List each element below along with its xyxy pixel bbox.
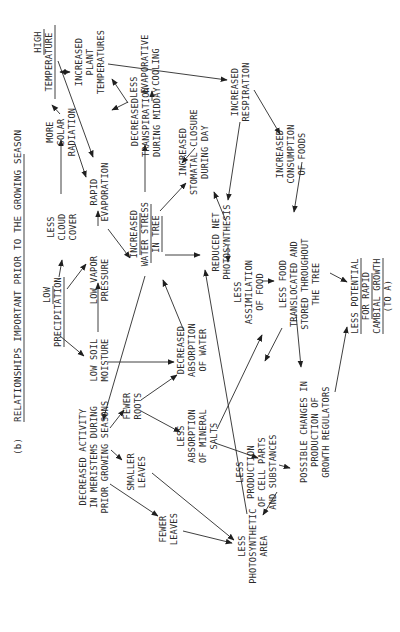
arrow-resp-to-photosyn xyxy=(228,122,240,200)
svg-text:TRANSPIRATION: TRANSPIRATION xyxy=(141,87,151,157)
arrow-lowprecip-to-cloud xyxy=(59,260,62,277)
svg-text:MOISTURE: MOISTURE xyxy=(100,339,110,382)
svg-text:CLOUD: CLOUD xyxy=(57,214,67,241)
node-increased-plant-temperatures: INCREASED PLANT TEMPERATURES xyxy=(74,30,106,95)
svg-text:RAPID: RAPID xyxy=(89,179,99,206)
arrow-evap-to-stress xyxy=(108,229,130,258)
svg-text:PRODUCTION: PRODUCTION xyxy=(246,445,256,499)
arrow-food-to-cellparts xyxy=(265,328,282,361)
arrow-roots-to-waterabs xyxy=(141,375,177,400)
svg-text:PHOTOSYNTHETIC: PHOTOSYNTHETIC xyxy=(248,508,258,583)
node-increased-consumption: INCREASED CONSUMPTION OF FOODS xyxy=(275,124,307,183)
node-less-cloud-cover: LESS CLOUD COVER xyxy=(46,213,78,240)
svg-text:ABSORPTION: ABSORPTION xyxy=(187,323,197,377)
svg-text:LESS: LESS xyxy=(176,425,186,447)
svg-text:RADIATION: RADIATION xyxy=(67,108,77,156)
svg-text:GROWTH REGULATORS: GROWTH REGULATORS xyxy=(321,386,331,477)
node-decreased-absorption-water: DECREASED ABSORPTION OF WATER xyxy=(176,323,208,377)
svg-text:SALTS: SALTS xyxy=(209,423,219,450)
node-rapid-evaporation: RAPID EVAPORATION xyxy=(89,162,110,221)
arrow-planttemp-to-resp xyxy=(108,64,227,80)
arrow-cellparts-to-regulators xyxy=(279,465,290,468)
svg-text:POSSIBLE CHANGES IN: POSSIBLE CHANGES IN xyxy=(299,381,309,483)
arrow-food-to-potential xyxy=(330,273,347,282)
node-reduced-net-photosynthesis: REDUCED NET PHOTOSYNTHESIS xyxy=(211,204,232,279)
svg-text:AND SUBSTANCES: AND SUBSTANCES xyxy=(268,434,278,509)
svg-text:LESS: LESS xyxy=(46,216,56,238)
svg-text:INCREASED: INCREASED xyxy=(129,210,139,258)
title-text: RELATIONSHIPS IMPORTANT PRIOR TO THE GRO… xyxy=(12,130,23,422)
flowchart-canvas: (b) RELATIONSHIPS IMPORTANT PRIOR TO THE… xyxy=(0,0,400,632)
svg-text:LESS POTENTIAL: LESS POTENTIAL xyxy=(350,258,360,333)
svg-text:LESS: LESS xyxy=(235,461,245,483)
svg-text:PRODUCTION OF: PRODUCTION OF xyxy=(310,397,320,467)
svg-text:LESS: LESS xyxy=(233,281,243,303)
svg-text:HIGH: HIGH xyxy=(33,31,43,53)
svg-text:OF CELL PARTS: OF CELL PARTS xyxy=(257,437,267,507)
svg-text:LEAVES: LEAVES xyxy=(169,513,179,545)
arrow-stress-to-stomatal xyxy=(160,183,186,211)
rotated-diagram: (b) RELATIONSHIPS IMPORTANT PRIOR TO THE… xyxy=(0,0,400,632)
svg-text:OF WATER: OF WATER xyxy=(198,328,208,372)
arrow-regulators-to-potential xyxy=(335,327,347,392)
svg-text:STORED THROUGHOUT: STORED THROUGHOUT xyxy=(300,238,310,329)
svg-text:CAMBIAL GROWTH: CAMBIAL GROWTH xyxy=(372,258,382,333)
node-possible-changes-regulators: POSSIBLE CHANGES IN PRODUCTION OF GROWTH… xyxy=(299,381,331,483)
svg-text:TEMPERATURE: TEMPERATURE xyxy=(44,32,54,91)
node-increased-stomatal-closure: INCREASED STOMATAL CLOSURE DURING DAY xyxy=(178,109,210,195)
diagram-stage: (b) RELATIONSHIPS IMPORTANT PRIOR TO THE… xyxy=(0,0,400,632)
arrow-resp-to-consumption xyxy=(254,90,280,134)
svg-text:DURING MIDDAY: DURING MIDDAY xyxy=(152,86,162,156)
svg-text:OF FOODS: OF FOODS xyxy=(297,133,307,176)
node-less-potential: LESS POTENTIAL FOR RAPID CAMBIAL GROWTH … xyxy=(350,258,393,334)
svg-text:DECREASED ACTIVITY: DECREASED ACTIVITY xyxy=(78,408,88,505)
svg-text:PRECIPITATION: PRECIPITATION xyxy=(53,277,63,347)
svg-text:IN TREE: IN TREE xyxy=(151,215,161,253)
node-increased-water-stress: INCREASED WATER STRESS IN TREE xyxy=(129,202,162,267)
arrow-mineral-to-assim xyxy=(217,335,262,429)
node-increased-respiration: INCREASED RESPIRATION xyxy=(230,62,251,121)
svg-text:COVER: COVER xyxy=(68,213,78,240)
svg-text:STOMATAL CLOSURE: STOMATAL CLOSURE xyxy=(189,109,199,195)
node-less-absorption-mineral: LESS ABSORPTION OF MINERAL SALTS xyxy=(176,409,219,463)
svg-text:INCREASED: INCREASED xyxy=(230,68,240,116)
node-less-production-cell-parts: LESS PRODUCTION OF CELL PARTS AND SUBSTA… xyxy=(235,434,278,509)
svg-text:EVAPORATIVE: EVAPORATIVE xyxy=(140,34,150,93)
svg-text:REDUCED NET: REDUCED NET xyxy=(211,212,221,271)
svg-text:RESPIRATION: RESPIRATION xyxy=(241,62,251,121)
node-fewer-roots: FEWER ROOTS xyxy=(122,392,143,419)
node-fewer-leaves: FEWER LEAVES xyxy=(158,513,179,545)
svg-text:LESS: LESS xyxy=(129,76,139,98)
svg-text:LESS: LESS xyxy=(237,535,247,557)
svg-text:IN MERISTEMS DURING: IN MERISTEMS DURING xyxy=(89,406,99,508)
node-low-soil-moisture: LOW SOIL MOISTURE xyxy=(89,339,110,382)
svg-text:CONSUMPTION: CONSUMPTION xyxy=(286,124,296,183)
arrow-cooling-up-to-planttemp xyxy=(112,79,128,103)
node-high-temperature: HIGH TEMPERATURE xyxy=(33,25,55,99)
node-low-precipitation: LOW PRECIPITATION xyxy=(42,277,64,347)
node-less-assimilation: LESS ASSIMILATION OF FOOD xyxy=(233,260,265,325)
node-less-food-translocated: LESS FOOD TRANSLOCATED AND STORED THROUG… xyxy=(278,238,321,329)
svg-text:INCREASED: INCREASED xyxy=(178,128,188,176)
svg-text:ROOTS: ROOTS xyxy=(133,393,143,420)
svg-text:(TO A): (TO A) xyxy=(383,280,393,312)
svg-text:AREA: AREA xyxy=(259,535,269,557)
arrow-waterabs-to-stress xyxy=(163,280,184,331)
svg-text:DURING DAY: DURING DAY xyxy=(200,125,210,179)
svg-text:TRANSLOCATED AND: TRANSLOCATED AND xyxy=(289,241,299,327)
diagram-title: (b) RELATIONSHIPS IMPORTANT PRIOR TO THE… xyxy=(12,130,24,455)
svg-text:DECREASED: DECREASED xyxy=(176,326,186,374)
node-low-vapor-pressure: LOW VAPOR PRESSURE xyxy=(89,255,110,304)
node-smaller-leaves: SMALLER LEAVES xyxy=(126,453,147,491)
node-decreased-activity-meristems: DECREASED ACTIVITY IN MERISTEMS DURING P… xyxy=(78,401,110,514)
svg-text:OF MINERAL: OF MINERAL xyxy=(198,409,208,463)
svg-text:THE TREE: THE TREE xyxy=(311,263,321,306)
svg-text:ASSIMILATION: ASSIMILATION xyxy=(244,260,254,325)
svg-text:FEWER: FEWER xyxy=(158,515,168,542)
arrow-solar-to-hightemp xyxy=(52,105,60,114)
arrow-roots-to-mineral xyxy=(141,411,180,432)
svg-text:EVAPORATION: EVAPORATION xyxy=(100,162,110,221)
svg-text:LEAVES: LEAVES xyxy=(137,456,147,488)
svg-text:PLANT: PLANT xyxy=(85,49,95,76)
svg-text:DECREASED: DECREASED xyxy=(130,98,140,146)
